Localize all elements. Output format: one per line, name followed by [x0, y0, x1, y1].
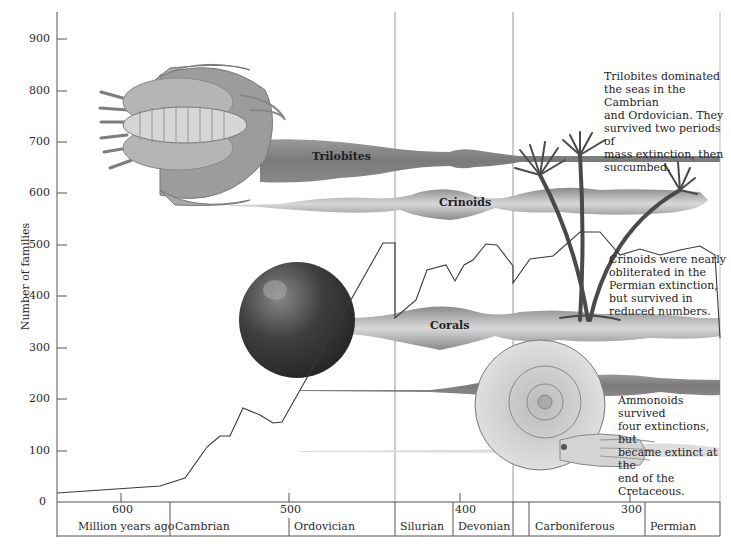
- x-tick-300: 300: [621, 503, 642, 516]
- x-tick-400: 400: [455, 503, 476, 516]
- period-permian: Permian: [650, 520, 696, 533]
- y-axis: [57, 12, 67, 537]
- y-tick-0: 0: [20, 495, 46, 508]
- y-tick-500: 500: [20, 238, 50, 251]
- y-tick-100: 100: [20, 444, 50, 457]
- period-silurian: Silurian: [400, 520, 444, 533]
- x-axis-unit-label: Million years ago: [78, 520, 174, 533]
- period-ordovician: Ordovician: [294, 520, 355, 533]
- band-label-crinoids: Crinoids: [439, 196, 491, 209]
- period-devonian: Devonian: [458, 520, 510, 533]
- y-tick-400: 400: [20, 289, 50, 302]
- note-crinoids: Crinoids were nearly obliterated in the …: [609, 253, 726, 318]
- y-tick-800: 800: [20, 84, 50, 97]
- y-tick-300: 300: [20, 341, 50, 354]
- trilobite-illustration: [100, 64, 285, 205]
- y-tick-200: 200: [20, 392, 50, 405]
- period-cambrian: Cambrian: [175, 520, 230, 533]
- period-carboniferous: Carboniferous: [535, 520, 615, 533]
- note-trilobites: Trilobites dominated the seas in the Cam…: [604, 70, 731, 174]
- band-label-trilobites: Trilobites: [312, 150, 371, 163]
- note-ammonoids: Ammonoids survived four extinctions, but…: [618, 394, 731, 498]
- y-tick-700: 700: [20, 135, 50, 148]
- coral-illustration: [239, 262, 355, 378]
- y-tick-600: 600: [20, 186, 50, 199]
- x-tick-500: 500: [280, 503, 301, 516]
- y-tick-900: 900: [20, 32, 50, 45]
- x-tick-600: 600: [112, 503, 133, 516]
- band-label-corals: Corals: [430, 319, 469, 332]
